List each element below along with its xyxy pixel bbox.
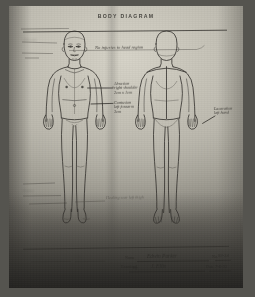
- annotation-right-shoulder-note: Abrasion right shoulder 2cm x 1cm: [114, 82, 138, 96]
- scan-shadow-bottom: [9, 192, 243, 288]
- top-rule: [23, 30, 227, 32]
- annotation-head-note: No injuries to head region: [95, 45, 143, 50]
- top-rule-short: [21, 28, 69, 29]
- paper-sheet: BODY DIAGRAM No injuries to head region …: [9, 6, 243, 288]
- annotation-left-hand-note: Laceration left hand: [214, 107, 233, 116]
- document-title: BODY DIAGRAM: [9, 13, 243, 19]
- annotation-left-forearm-note: Contusion left forearm 3cm: [114, 101, 134, 114]
- annotation-left-upper-note: Old scar: [23, 38, 37, 42]
- scanned-document-page: BODY DIAGRAM No injuries to head region …: [0, 0, 255, 297]
